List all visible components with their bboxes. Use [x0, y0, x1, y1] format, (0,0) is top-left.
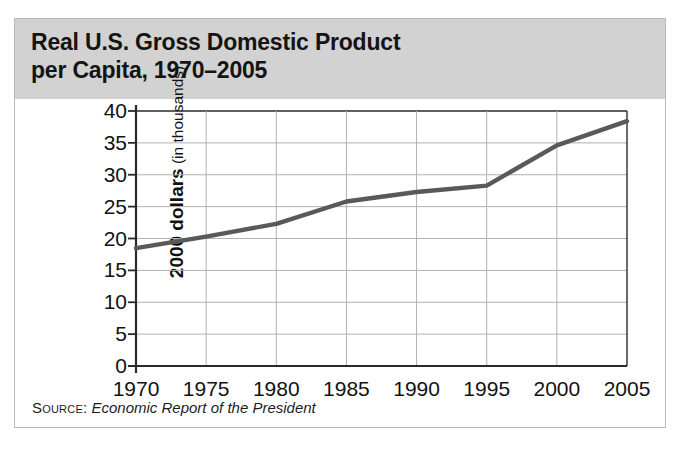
x-tick-label: 1970: [113, 377, 160, 401]
source-text: Economic Report of the President: [91, 399, 315, 416]
chart-header-band: Real U.S. Gross Domestic Product per Cap…: [15, 19, 665, 99]
chart-grid-and-line: [136, 111, 627, 366]
chart-title: Real U.S. Gross Domestic Product per Cap…: [31, 28, 400, 85]
source-note: Source: Economic Report of the President: [32, 399, 316, 416]
plot-region: 2000 dollars (in thousands) 051015202530…: [15, 99, 665, 429]
y-tick-label: 30: [104, 163, 127, 187]
y-tick-label: 0: [115, 354, 127, 378]
source-label: Source:: [32, 399, 87, 416]
data-line-series-0: [136, 121, 627, 248]
x-tick-label: 2000: [533, 377, 580, 401]
x-tick-label: 1975: [183, 377, 230, 401]
y-tick-label: 35: [104, 131, 127, 155]
y-tick-label: 15: [104, 258, 127, 282]
x-tick-label: 2005: [604, 377, 651, 401]
plot-frame: 2000 dollars (in thousands) 051015202530…: [136, 111, 627, 366]
y-tick-label: 10: [104, 290, 127, 314]
chart-card: Real U.S. Gross Domestic Product per Cap…: [14, 18, 666, 428]
y-tick-label: 25: [104, 195, 127, 219]
x-tick-label: 1990: [393, 377, 440, 401]
x-tick-label: 1980: [253, 377, 300, 401]
y-tick-label: 5: [115, 322, 127, 346]
x-tick-label: 1995: [463, 377, 510, 401]
x-tick-label: 1985: [323, 377, 370, 401]
y-tick-label: 20: [104, 227, 127, 251]
y-tick-label: 40: [104, 99, 127, 123]
